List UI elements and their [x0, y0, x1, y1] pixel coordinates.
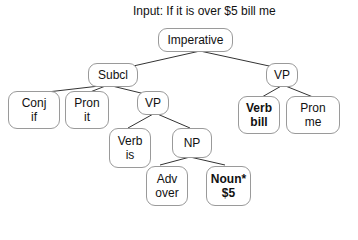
node-np: NP [172, 128, 212, 158]
node-adv: Adv over [146, 166, 188, 206]
node-label: NP [184, 136, 201, 150]
node-word: over [155, 186, 178, 200]
node-word: it [84, 110, 90, 124]
node-pron-me: Pron me [286, 96, 340, 134]
node-vp-sub: VP [137, 91, 169, 115]
node-label: Verb [118, 134, 143, 148]
node-pron-it: Pron it [65, 91, 109, 129]
node-label: VP [274, 68, 290, 82]
node-word: $5 [222, 186, 235, 200]
node-word: bill [250, 115, 267, 129]
node-word: if [31, 110, 37, 124]
edge-vp-np [155, 113, 190, 128]
node-label: Noun* [211, 172, 246, 186]
node-noun: Noun* $5 [206, 166, 251, 206]
node-label: VP [145, 96, 161, 110]
node-verb-bill: Verb bill [238, 96, 280, 134]
node-label: Subcl [98, 68, 128, 82]
node-label: Adv [157, 172, 178, 186]
node-verb-is: Verb is [109, 128, 151, 168]
node-vp-root: VP [266, 63, 298, 87]
node-label: Pron [74, 96, 99, 110]
node-label: Verb [246, 101, 272, 115]
node-label: Pron [300, 101, 325, 115]
edge-np-noun [190, 157, 225, 165]
edge-np-adv [160, 157, 190, 165]
node-word: me [305, 115, 322, 129]
node-conj: Conj if [8, 91, 60, 129]
node-word: is [126, 148, 135, 162]
node-subcl: Subcl [88, 63, 138, 87]
node-label: Conj [22, 96, 47, 110]
node-label: Imperative [167, 33, 223, 47]
node-imperative: Imperative [158, 28, 233, 52]
edge-vp-verb-is [128, 113, 155, 128]
